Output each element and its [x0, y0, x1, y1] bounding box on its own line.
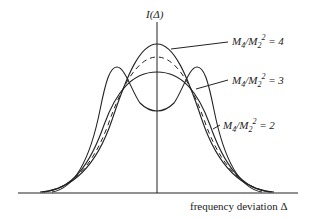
legend-m4-4: M4/M22 = 4: [232, 33, 284, 50]
legend-text: M: [223, 119, 232, 131]
legend-text: /M: [245, 35, 257, 47]
legend-text: M: [232, 74, 241, 86]
legend-sub: 2: [257, 80, 261, 89]
legend-value: = 3: [265, 74, 283, 86]
legend-sub: 2: [248, 125, 252, 134]
arrow-m4-4: [171, 42, 228, 49]
arrow-m4-2: [213, 125, 220, 129]
arrow-m4-3: [196, 80, 228, 89]
legend-text: /M: [245, 74, 257, 86]
legend-m4-2: M4/M22 = 2: [223, 117, 275, 134]
legend-text: M: [232, 35, 241, 47]
legend-value: = 2: [256, 119, 274, 131]
legend-m4-3: M4/M22 = 3: [232, 72, 284, 89]
y-axis-label: I(Δ): [146, 8, 163, 20]
legend-sub: 2: [257, 41, 261, 50]
x-axis-label: frequency deviation Δ: [190, 200, 287, 212]
legend-value: = 4: [265, 35, 283, 47]
legend-text: /M: [236, 119, 248, 131]
